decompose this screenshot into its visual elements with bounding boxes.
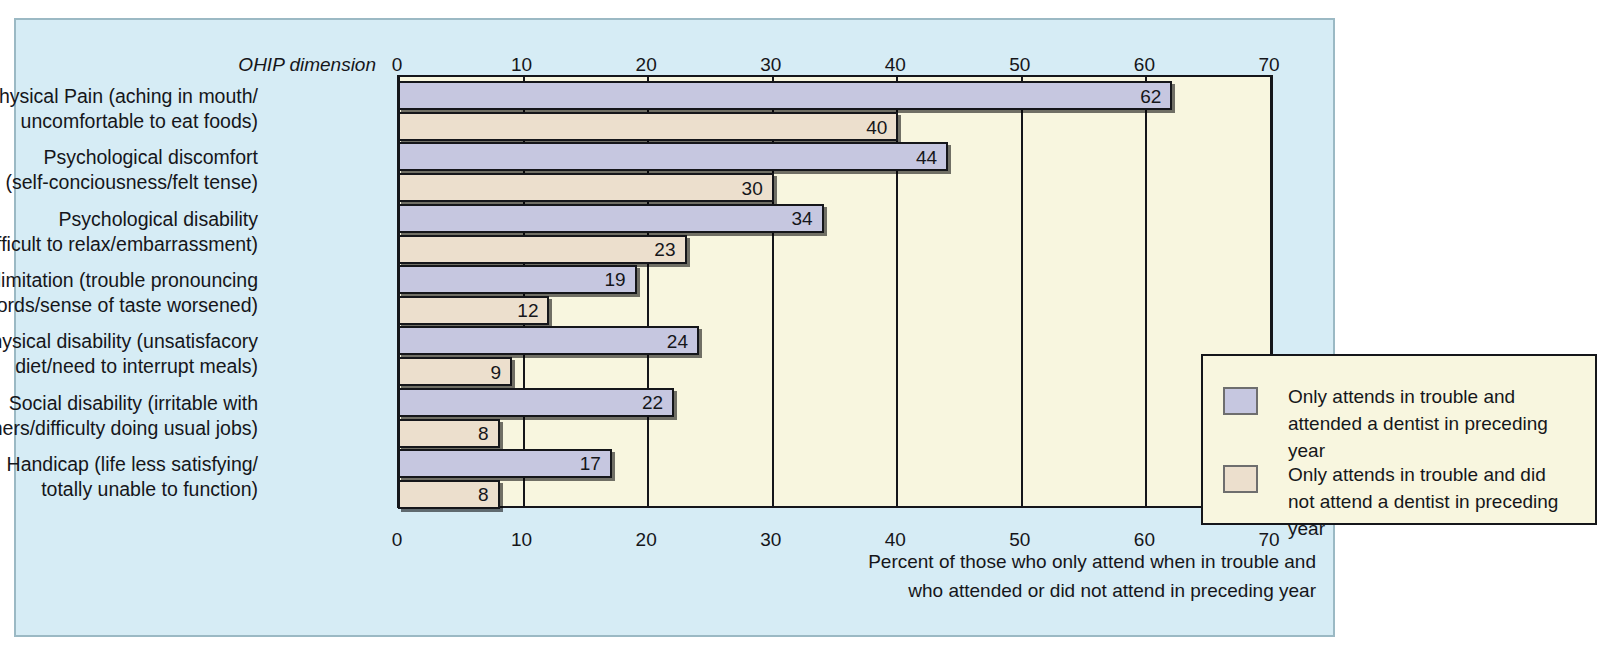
category-label-4: Physical disability (unsatisfacory diet/… bbox=[0, 329, 258, 379]
bar-series1-cat5: 8 bbox=[398, 419, 500, 448]
category-label-0: Physical Pain (aching in mouth/ uncomfor… bbox=[0, 84, 258, 134]
bar-series1-cat0: 40 bbox=[398, 112, 898, 141]
x-tick-top-70: 70 bbox=[1239, 54, 1299, 76]
bar-series0-cat6: 17 bbox=[398, 449, 612, 478]
bar-series0-cat1: 44 bbox=[398, 142, 948, 171]
bar-value-label: 19 bbox=[605, 270, 626, 289]
bar-series1-cat4: 9 bbox=[398, 357, 512, 386]
x-tick-top-10: 10 bbox=[492, 54, 552, 76]
bar-series1-cat6: 8 bbox=[398, 480, 500, 509]
x-tick-bottom-10: 10 bbox=[492, 529, 552, 551]
axis-title: OHIP dimension bbox=[146, 54, 376, 76]
x-tick-top-60: 60 bbox=[1114, 54, 1174, 76]
x-tick-top-20: 20 bbox=[616, 54, 676, 76]
bar-value-label: 30 bbox=[742, 178, 763, 197]
bar-value-label: 8 bbox=[478, 424, 489, 443]
bar-series0-cat4: 24 bbox=[398, 326, 699, 355]
x-tick-top-0: 0 bbox=[367, 54, 427, 76]
legend-swatch-1 bbox=[1223, 465, 1258, 493]
bar-series0-cat3: 19 bbox=[398, 265, 637, 294]
bar-value-label: 22 bbox=[642, 393, 663, 412]
x-tick-bottom-0: 0 bbox=[367, 529, 427, 551]
legend-label-1: Only attends in trouble and did not atte… bbox=[1288, 461, 1585, 542]
gridline-50 bbox=[1021, 77, 1023, 506]
bar-value-label: 24 bbox=[667, 331, 688, 350]
bar-value-label: 34 bbox=[791, 209, 812, 228]
bar-value-label: 23 bbox=[654, 240, 675, 259]
bar-series0-cat0: 62 bbox=[398, 81, 1172, 110]
bar-value-label: 62 bbox=[1140, 86, 1161, 105]
gridline-60 bbox=[1145, 77, 1147, 506]
x-tick-top-30: 30 bbox=[741, 54, 801, 76]
bar-series1-cat2: 23 bbox=[398, 235, 687, 264]
bar-value-label: 44 bbox=[916, 147, 937, 166]
bar-value-label: 8 bbox=[478, 485, 489, 504]
bar-value-label: 17 bbox=[580, 454, 601, 473]
bar-series0-cat2: 34 bbox=[398, 204, 824, 233]
x-tick-top-40: 40 bbox=[865, 54, 925, 76]
category-label-5: Social disability (irritable with others… bbox=[0, 391, 258, 441]
legend-box: Only attends in trouble and attended a d… bbox=[1201, 354, 1597, 525]
legend-item-0[interactable]: Only attends in trouble and attended a d… bbox=[1223, 383, 1585, 464]
figure-panel: OHIP dimension 010203040506070 624044303… bbox=[14, 18, 1335, 637]
category-label-2: Psychological disability (difficult to r… bbox=[0, 207, 258, 257]
category-label-6: Handicap (life less satisfying/ totally … bbox=[0, 452, 258, 502]
plot-area: 6240443034231912249228178 Only attends i… bbox=[397, 75, 1273, 508]
bar-value-label: 9 bbox=[491, 362, 502, 381]
axis-caption: Percent of those who only attend when in… bbox=[656, 547, 1316, 605]
bar-value-label: 40 bbox=[866, 117, 887, 136]
bar-value-label: 12 bbox=[517, 301, 538, 320]
x-tick-top-50: 50 bbox=[990, 54, 1050, 76]
legend-label-0: Only attends in trouble and attended a d… bbox=[1288, 383, 1585, 464]
legend-swatch-0 bbox=[1223, 387, 1258, 415]
category-label-3: Functional limitation (trouble pronounci… bbox=[0, 268, 258, 318]
category-label-1: Psychological discomfort (self-conciousn… bbox=[0, 145, 258, 195]
bar-series1-cat3: 12 bbox=[398, 296, 549, 325]
bar-series1-cat1: 30 bbox=[398, 173, 774, 202]
bar-series0-cat5: 22 bbox=[398, 388, 674, 417]
